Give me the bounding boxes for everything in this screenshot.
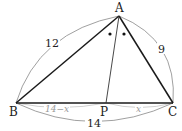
label-c: C bbox=[168, 105, 177, 119]
side-ab bbox=[16, 16, 119, 103]
label-b: B bbox=[9, 105, 18, 119]
bisector-ap bbox=[106, 16, 119, 103]
length-pc: x bbox=[136, 104, 141, 114]
side-ac bbox=[119, 16, 173, 103]
triangle-diagram: A B P C 12 9 14 14−x x bbox=[0, 0, 182, 131]
angle-mark-dot-right bbox=[122, 32, 125, 35]
label-p: P bbox=[100, 105, 108, 119]
angle-mark-dot-left bbox=[108, 32, 111, 35]
label-a: A bbox=[114, 1, 124, 15]
length-bp: 14−x bbox=[45, 104, 69, 114]
length-ac: 9 bbox=[158, 43, 165, 56]
length-ab: 12 bbox=[45, 37, 59, 50]
length-bc: 14 bbox=[87, 117, 101, 130]
